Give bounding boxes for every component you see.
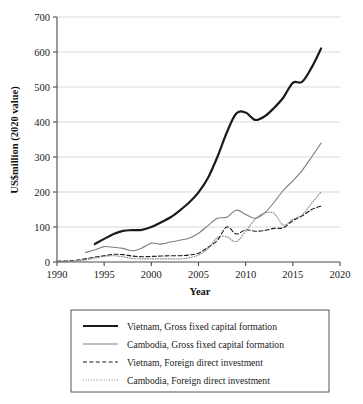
y-tick-label: 700	[34, 12, 50, 23]
chart-container: 0100200300400500600700 19901995200020052…	[0, 0, 363, 404]
y-tick-label: 400	[34, 117, 50, 128]
x-tick-label: 2000	[141, 269, 162, 280]
y-axis-ticks: 0100200300400500600700	[34, 12, 57, 268]
chart-legend: Vietnam, Gross fixed capital formationCa…	[71, 310, 329, 392]
data-series	[57, 49, 321, 262]
y-tick-label: 300	[34, 152, 50, 163]
legend-label-3: Cambodia, Foreign direct investment	[127, 375, 270, 386]
x-tick-label: 1990	[47, 269, 68, 280]
legend-label-1: Cambodia, Gross fixed capital formation	[127, 339, 284, 350]
x-tick-label: 2005	[188, 269, 209, 280]
gridlines	[57, 17, 340, 227]
x-tick-label: 2020	[330, 269, 351, 280]
series-line-1	[85, 143, 321, 253]
x-axis-title: Year	[190, 286, 211, 297]
y-tick-label: 200	[34, 187, 50, 198]
legend-label-0: Vietnam, Gross fixed capital formation	[127, 321, 277, 332]
x-tick-label: 1995	[94, 269, 115, 280]
y-tick-label: 0	[45, 257, 50, 268]
y-axis-title: US$million (2020 value)	[9, 86, 21, 194]
y-tick-label: 600	[34, 47, 50, 58]
y-tick-label: 500	[34, 82, 50, 93]
legend-label-2: Vietnam, Foreign direct investment	[127, 357, 263, 368]
x-axis-ticks: 1990199520002005201020152020	[47, 262, 351, 280]
series-line-0	[95, 49, 321, 245]
y-tick-label: 100	[34, 222, 50, 233]
line-chart: 0100200300400500600700 19901995200020052…	[0, 0, 363, 404]
series-line-2	[57, 206, 321, 261]
x-tick-label: 2010	[235, 269, 256, 280]
x-tick-label: 2015	[282, 269, 303, 280]
